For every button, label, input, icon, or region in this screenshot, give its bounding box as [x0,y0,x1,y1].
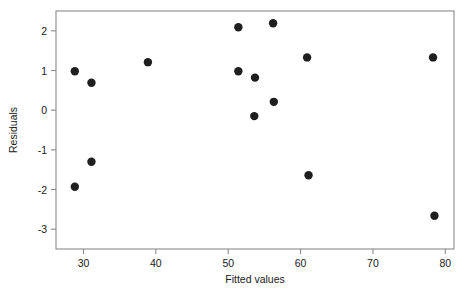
y-tick-label: -3 [38,223,47,235]
data-point [304,171,312,179]
y-tick-label: 1 [41,65,47,77]
x-tick-label: 70 [367,257,379,269]
y-axis-ticks [51,31,56,229]
data-point [250,112,258,120]
x-tick-label: 30 [78,257,90,269]
data-point [251,73,259,81]
scatter-plot-canvas: 304050607080 210-1-2-3 Fitted values Res… [0,0,474,293]
y-tick-label: -2 [38,184,47,196]
x-axis-title: Fitted values [225,273,285,285]
data-point [87,79,95,87]
data-point [269,19,277,27]
x-tick-label: 80 [439,257,451,269]
data-point [303,53,311,61]
data-point [234,23,242,31]
data-point [430,211,438,219]
data-point [429,53,437,61]
x-tick-label: 60 [295,257,307,269]
y-axis-title: Residuals [7,107,19,153]
data-point [270,98,278,106]
y-tick-label: -1 [38,144,47,156]
y-axis-tick-labels: 210-1-2-3 [38,25,48,235]
data-point [71,183,79,191]
x-axis-ticks [83,249,445,254]
data-point [144,58,152,66]
data-point [234,67,242,75]
plot-frame [56,11,454,249]
plot-frame-rect [56,11,454,249]
x-axis-tick-labels: 304050607080 [78,257,452,269]
y-tick-label: 2 [41,25,47,37]
data-point [71,67,79,75]
x-tick-label: 50 [222,257,234,269]
x-tick-label: 40 [150,257,162,269]
data-point [87,158,95,166]
residual-plot-figure: 304050607080 210-1-2-3 Fitted values Res… [0,0,474,293]
y-tick-label: 0 [41,104,47,116]
data-points-group [71,19,439,220]
